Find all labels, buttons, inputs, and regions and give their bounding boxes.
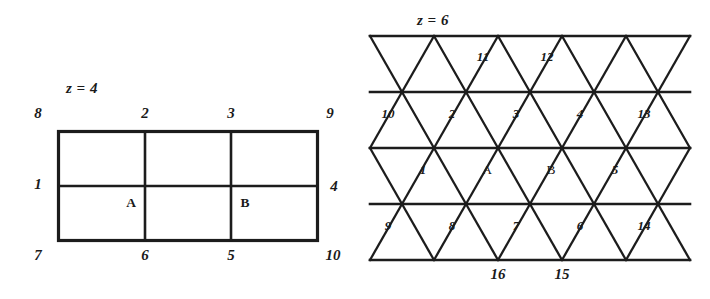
node-label-1: 1 bbox=[34, 176, 42, 192]
triangle-label-9: 9 bbox=[385, 218, 392, 233]
triangular-lattice-panel: z = 6 bbox=[355, 0, 710, 299]
square-lattice-panel: z = 4 8 2 3 9 1 4 7 6 5 10 A B bbox=[0, 0, 355, 299]
square-lattice-caption: z = 4 bbox=[65, 80, 98, 96]
node-label-4: 4 bbox=[329, 178, 338, 194]
node-label-7: 7 bbox=[34, 247, 42, 263]
triangle-label-7: 7 bbox=[513, 218, 520, 233]
triangular-lattice-caption: z = 6 bbox=[416, 12, 449, 28]
triangle-label-5: 5 bbox=[612, 162, 619, 177]
triangle-label-1: 1 bbox=[420, 162, 427, 177]
triangle-label-12: 12 bbox=[541, 49, 555, 64]
triangle-label-3: 3 bbox=[512, 106, 520, 121]
triangle-label-10: 10 bbox=[382, 106, 396, 121]
node-label-5: 5 bbox=[227, 247, 235, 263]
node-label-16: 16 bbox=[491, 266, 507, 282]
figure-root: z = 4 8 2 3 9 1 4 7 6 5 10 A B bbox=[0, 0, 710, 299]
triangle-label-2: 2 bbox=[448, 106, 456, 121]
triangle-label-6: 6 bbox=[577, 218, 584, 233]
node-label-10: 10 bbox=[326, 247, 342, 263]
triangular-lattice-diagram: z = 6 bbox=[355, 0, 710, 299]
cell-label-a: A bbox=[126, 195, 136, 210]
triangle-label-8: 8 bbox=[449, 218, 456, 233]
triangle-label-13: 13 bbox=[638, 106, 652, 121]
node-label-8: 8 bbox=[34, 105, 42, 121]
square-lattice-diagram: z = 4 8 2 3 9 1 4 7 6 5 10 A B bbox=[0, 0, 355, 299]
triangle-label-4: 4 bbox=[576, 106, 584, 121]
cell-label-b: B bbox=[240, 195, 249, 210]
node-label-3: 3 bbox=[226, 105, 235, 121]
triangle-label-11: 11 bbox=[477, 49, 489, 64]
triangle-label-14: 14 bbox=[638, 218, 652, 233]
node-label-2: 2 bbox=[140, 105, 149, 121]
node-label-6: 6 bbox=[141, 247, 149, 263]
node-label-15: 15 bbox=[555, 266, 571, 282]
triangle-label-a: A bbox=[482, 162, 492, 177]
node-label-9: 9 bbox=[326, 105, 334, 121]
triangle-label-b: B bbox=[546, 162, 555, 177]
